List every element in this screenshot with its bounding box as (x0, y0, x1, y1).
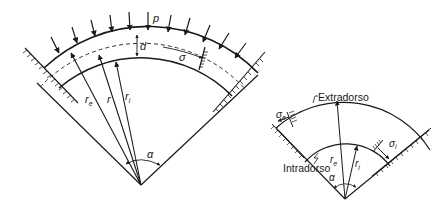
right-extrados-arc (276, 102, 430, 150)
left-intrados-arc (59, 58, 232, 96)
thickness-label-d: d (140, 40, 147, 52)
stress-label-sigma: σ (179, 51, 186, 63)
section-hatch (199, 47, 208, 70)
radius-line-re (71, 53, 141, 185)
intrados-label: Intradorso (283, 162, 330, 174)
inner-stress-hatch (373, 140, 383, 152)
outer-stress-label: σe (276, 109, 286, 121)
load-label-p: p (152, 12, 159, 24)
left-extrados-arc (44, 26, 258, 73)
left-arch-diagram: p d σ re r ri α (23, 12, 265, 185)
angle-arc-alpha (126, 160, 160, 165)
right-arch-diagram: Extradorso Intradorso σe σi (271, 91, 431, 199)
radius-label-ri: ri (125, 90, 131, 104)
load-arrows (51, 12, 246, 58)
right-angle-arc-alpha (334, 184, 356, 188)
extrados-label: Extradorso (318, 91, 369, 103)
inner-stress-label: σi (389, 138, 397, 150)
radius-label-re: re (85, 93, 93, 107)
inner-stress-arrow (378, 148, 389, 159)
right-support-hatch-right (372, 128, 431, 176)
right-radius-label-ri: ri (355, 158, 360, 171)
angle-label-alpha: α (147, 148, 154, 160)
left-abutment-line-right (141, 75, 258, 185)
right-support-hatch-left (271, 124, 304, 158)
radius-line-r (99, 55, 141, 185)
left-support-hatch-left (23, 48, 78, 103)
arch-diagrams: p d σ re r ri α (0, 0, 448, 213)
left-support-hatch-right (213, 52, 265, 112)
right-angle-label-alpha: α (329, 172, 335, 183)
right-radius-label-re: re (330, 154, 337, 167)
radius-label-r: r (107, 93, 112, 105)
radius-line-ri (116, 62, 141, 185)
